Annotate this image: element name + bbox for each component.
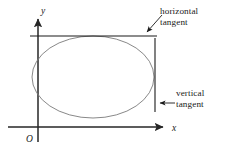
horizontal-tangent-label-line1: horizontal: [160, 6, 198, 17]
ellipse-curve: [32, 36, 154, 118]
horizontal-tangent-label-line2: tangent: [160, 17, 198, 28]
vertical-tangent-label-line2: tangent: [176, 99, 204, 110]
y-axis-label: y: [40, 6, 46, 16]
horizontal-tangent-label: horizontal tangent: [160, 6, 198, 27]
figure-container: x y O horizontal tangent vertical tangen…: [0, 0, 237, 148]
vertical-tangent-label-line1: vertical: [176, 88, 204, 99]
origin-label: O: [26, 134, 33, 144]
x-axis-label: x: [171, 123, 177, 133]
tangent-lines-diagram: x y O: [0, 0, 237, 148]
vertical-tangent-label: vertical tangent: [176, 88, 204, 109]
